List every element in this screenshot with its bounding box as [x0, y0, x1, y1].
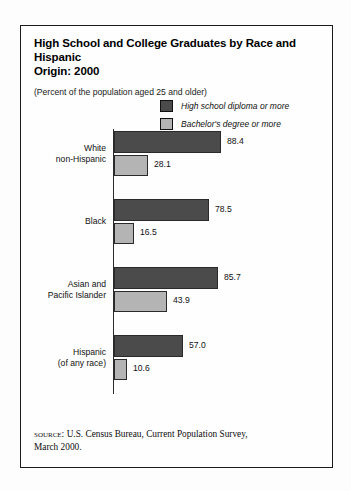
figure-page: High School and College Graduates by Rac…: [0, 0, 351, 491]
bar-group: Hispanic (of any race) 57.0 10.6: [21, 333, 332, 395]
bar-high-school: [114, 335, 183, 357]
page-title-line-1: High School and College Graduates by Rac…: [34, 37, 296, 63]
bar-group: Black 78.5 16.5: [21, 197, 332, 259]
bar-value-high-school: 85.7: [224, 272, 241, 282]
bar-value-high-school: 57.0: [189, 340, 206, 350]
category-label-line-2: (of any race): [58, 358, 106, 368]
category-label-white-non-hispanic: White non-Hispanic: [20, 143, 106, 164]
category-label-line-1: White: [84, 143, 106, 153]
chart-subtitle: (Percent of the population aged 25 and o…: [34, 87, 309, 98]
bar-value-bachelors: 16.5: [140, 227, 157, 237]
legend-label-bachelors: Bachelor's degree or more: [181, 119, 281, 129]
category-label-line-2: Pacific Islander: [48, 290, 106, 300]
legend-label-high-school: High school diploma or more: [181, 101, 289, 111]
bar-bachelors: [114, 155, 148, 176]
bar-value-bachelors: 43.9: [173, 295, 190, 305]
bar-bachelors: [114, 223, 134, 244]
bar-value-bachelors: 10.6: [133, 363, 150, 373]
category-label-black: Black: [20, 216, 106, 227]
source-note: source: U.S. Census Bureau, Current Popu…: [34, 428, 319, 453]
page-title: High School and College Graduates by Rac…: [34, 36, 309, 78]
bar-bachelors: [114, 291, 167, 312]
bar-high-school: [114, 131, 221, 153]
bar-group: White non-Hispanic 88.4 28.1: [21, 129, 332, 191]
bar-bachelors: [114, 359, 127, 380]
source-text-line-2: March 2000.: [34, 442, 82, 452]
bar-group: Asian and Pacific Islander 85.7 43.9: [21, 265, 332, 327]
source-kicker: source:: [34, 428, 64, 439]
legend-item-high-school: High school diploma or more: [160, 98, 322, 113]
category-label-line-1: Black: [85, 216, 106, 226]
legend-swatch-bachelors: [160, 118, 173, 130]
legend-swatch-high-school: [160, 100, 173, 112]
category-label-asian-pacific-islander: Asian and Pacific Islander: [20, 279, 106, 300]
figure-frame: High School and College Graduates by Rac…: [20, 25, 333, 468]
category-label-line-1: Hispanic: [73, 347, 106, 357]
bar-value-bachelors: 28.1: [154, 159, 171, 169]
source-text: U.S. Census Bureau, Current Population S…: [67, 429, 248, 439]
page-title-line-2: Origin: 2000: [34, 65, 99, 77]
category-label-line-1: Asian and: [68, 279, 106, 289]
title-block: High School and College Graduates by Rac…: [34, 36, 309, 98]
bar-value-high-school: 78.5: [215, 204, 232, 214]
plot-area: White non-Hispanic 88.4 28.1 Black 78.5: [21, 129, 332, 397]
bar-value-high-school: 88.4: [227, 136, 244, 146]
category-label-line-2: non-Hispanic: [56, 154, 106, 164]
category-label-hispanic: Hispanic (of any race): [20, 347, 106, 368]
bar-high-school: [114, 267, 218, 289]
bar-high-school: [114, 199, 209, 221]
